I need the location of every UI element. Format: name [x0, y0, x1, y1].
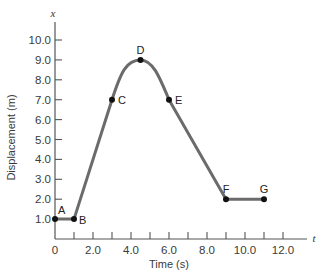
x-variable-label: t: [312, 232, 316, 244]
x-tick-label: 10.0: [234, 244, 256, 256]
x-tick-label: 2.0: [85, 244, 101, 256]
x-axis-title: Time (s): [149, 258, 189, 270]
point-label-b: B: [79, 214, 86, 226]
y-variable-label: x: [50, 7, 56, 19]
data-curve: [55, 60, 264, 219]
point-f: [223, 196, 229, 202]
y-tick-label: 1.0: [35, 213, 51, 225]
point-label-c: C: [118, 94, 126, 106]
point-e: [166, 97, 172, 103]
axes: 1.02.03.04.05.06.07.08.09.010.002.04.06.…: [5, 7, 316, 270]
x-tick-label: 6.0: [161, 244, 177, 256]
point-d: [138, 57, 144, 63]
y-tick-label: 9.0: [35, 54, 51, 66]
y-tick-label: 2.0: [35, 193, 51, 205]
y-tick-label: 10.0: [29, 34, 51, 46]
y-tick-label: 7.0: [35, 94, 51, 106]
point-label-a: A: [58, 204, 66, 216]
displacement-time-chart: 1.02.03.04.05.06.07.08.09.010.002.04.06.…: [0, 0, 323, 278]
point-label-d: D: [137, 44, 145, 56]
point-a: [52, 216, 58, 222]
point-c: [109, 97, 115, 103]
x-tick-label: 4.0: [123, 244, 139, 256]
y-tick-label: 6.0: [35, 114, 51, 126]
point-g: [261, 196, 267, 202]
x-tick-label: 8.0: [199, 244, 215, 256]
point-label-g: G: [260, 183, 269, 195]
y-tick-label: 5.0: [35, 134, 51, 146]
y-tick-label: 4.0: [35, 153, 51, 165]
displacement-line: [55, 60, 264, 219]
y-axis-title: Displacement (m): [5, 94, 17, 180]
point-label-e: E: [175, 94, 182, 106]
point-b: [71, 216, 77, 222]
x-tick-label: 0: [52, 244, 58, 256]
y-tick-label: 8.0: [35, 74, 51, 86]
y-tick-label: 3.0: [35, 173, 51, 185]
x-tick-label: 12.0: [272, 244, 294, 256]
point-label-f: F: [223, 183, 230, 195]
